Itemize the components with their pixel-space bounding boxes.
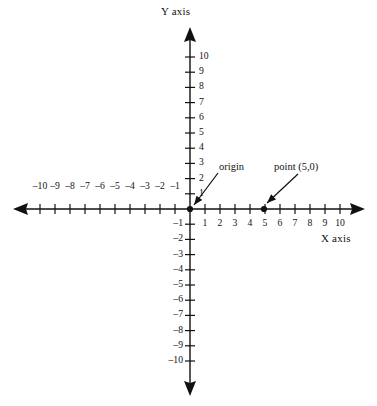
annotation-label-origin: origin (219, 161, 244, 172)
y-tick-label-pos-6: 6 (199, 111, 221, 122)
x-axis-title: X axis (321, 232, 351, 244)
y-tick-label-pos-9: 9 (199, 65, 221, 76)
x-tick-label-pos-10: 10 (326, 217, 354, 228)
y-tick-label-neg-5: –5 (157, 278, 183, 289)
x-axis-left-arrowhead (13, 203, 28, 215)
x-axis-right-arrowhead (350, 203, 365, 215)
y-tick-label-pos-4: 4 (199, 141, 221, 152)
y-tick-label-neg-10: –10 (157, 354, 183, 365)
y-tick-label-pos-1: 1 (199, 187, 221, 198)
y-tick-label-pos-7: 7 (199, 96, 221, 107)
y-tick-label-neg-9: –9 (157, 339, 183, 350)
axes-canvas (0, 0, 377, 406)
coordinate-plane-figure: Y axis X axis origin point (5,0) –11–22–… (0, 0, 377, 406)
y-axis-bottom-arrowhead (184, 381, 196, 396)
y-tick-label-pos-5: 5 (199, 126, 221, 137)
y-tick-label-neg-8: –8 (157, 324, 183, 335)
annotation-label-point-5-0: point (5,0) (274, 161, 318, 172)
y-tick-label-pos-3: 3 (199, 156, 221, 167)
y-tick-label-neg-2: –2 (157, 232, 183, 243)
y-axis-top-arrowhead (184, 27, 196, 42)
y-axis-title: Y axis (161, 5, 190, 17)
y-tick-label-neg-4: –4 (157, 263, 183, 274)
origin-dot (187, 206, 193, 212)
y-tick-label-neg-3: –3 (157, 248, 183, 259)
x-tick-label-neg-10: –10 (26, 180, 54, 191)
point-5-0-dot (261, 206, 267, 212)
y-tick-label-pos-10: 10 (199, 50, 221, 61)
y-tick-label-neg-6: –6 (157, 293, 183, 304)
y-tick-label-pos-2: 2 (199, 172, 221, 183)
y-tick-label-neg-1: –1 (157, 217, 183, 228)
y-tick-label-neg-7: –7 (157, 308, 183, 319)
y-tick-label-pos-8: 8 (199, 80, 221, 91)
